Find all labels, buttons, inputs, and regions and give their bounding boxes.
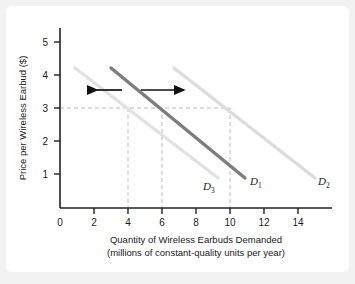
x-tick-label-4: 4 (125, 217, 131, 228)
x-tick-label-12: 12 (258, 217, 270, 228)
x-tick-label-10: 10 (224, 217, 236, 228)
x-tick-label-6: 6 (159, 217, 165, 228)
chart-canvas: 5 4 3 2 1 0 2 4 6 8 10 12 14 D3 D1 D2 Pr… (0, 0, 355, 284)
x-axis-title-line2: (millions of constant-quality units per … (107, 247, 285, 258)
y-tick-label-2: 2 (42, 136, 48, 147)
y-tick-label-1: 1 (42, 169, 48, 180)
x-axis-title-line1: Quantity of Wireless Earbuds Demanded (110, 234, 282, 245)
y-tick-label-3: 3 (42, 103, 48, 114)
y-tick-label-5: 5 (42, 37, 48, 48)
y-axis-title: Price per Wireless Earbud ($) (17, 56, 28, 181)
x-tick-label-8: 8 (193, 217, 199, 228)
x-tick-label-2: 2 (91, 217, 97, 228)
demand-shift-figure: 5 4 3 2 1 0 2 4 6 8 10 12 14 D3 D1 D2 Pr… (0, 0, 355, 284)
x-tick-label-0: 0 (57, 217, 63, 228)
figure-background (6, 6, 349, 272)
x-tick-label-14: 14 (292, 217, 304, 228)
y-tick-label-4: 4 (42, 70, 48, 81)
